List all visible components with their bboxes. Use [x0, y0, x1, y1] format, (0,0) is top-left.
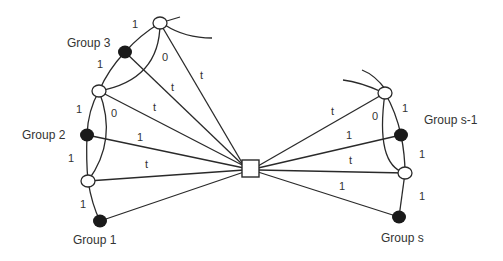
- edge-groups1-hub: [258, 135, 401, 168]
- group-label: Group s: [381, 231, 424, 245]
- edge-weight-label: t: [153, 101, 156, 113]
- edge-weight-label: 1: [76, 103, 82, 115]
- open-node: [81, 175, 95, 187]
- edge-weight-label: 1: [137, 131, 143, 143]
- group-label: Group 3: [67, 36, 111, 50]
- edge-weight-label: 1: [346, 129, 352, 141]
- edge-weight-label: 1: [97, 58, 103, 70]
- edge-group3-hub: [125, 52, 244, 166]
- edge-weight-label: t: [171, 81, 174, 93]
- edge-weight-label: 0: [111, 107, 117, 119]
- open-node: [398, 167, 412, 179]
- edge-weight-label: t: [200, 69, 203, 81]
- group-label: Group 1: [73, 233, 117, 247]
- filled-node-group-s: [392, 211, 406, 224]
- edge-weight-label: 1: [132, 18, 138, 30]
- filled-node-group3: [118, 46, 132, 59]
- group-labels: Group 3 Group 2 Group 1 Group s-1 Group …: [22, 36, 478, 247]
- filled-node-group-s-1: [394, 129, 408, 142]
- group-label: Group s-1: [424, 113, 478, 127]
- edge-rtop-hub: [258, 93, 385, 166]
- edge-group2-hub: [87, 135, 244, 168]
- right-chain: [343, 70, 405, 217]
- filled-node-group1: [93, 215, 107, 228]
- hub-square-node: [242, 160, 259, 177]
- open-node: [92, 85, 106, 97]
- edge-weight-label: 0: [372, 110, 378, 122]
- edge-weight-label: 1: [419, 148, 425, 160]
- edge-weight-label: 1: [339, 180, 345, 192]
- open-node: [378, 87, 392, 99]
- edge-groups-hub: [258, 172, 399, 217]
- edge-rbot-hub: [258, 170, 405, 173]
- group-label: Group 2: [22, 128, 66, 142]
- edge-group1-hub: [100, 172, 244, 221]
- bipartite-group-diagram: Group 3 Group 2 Group 1 Group s-1 Group …: [0, 0, 503, 261]
- edge-weight-label: 0: [162, 51, 168, 63]
- filled-node-group2: [80, 129, 94, 142]
- edge-weight-label: 1: [402, 102, 408, 114]
- edge-weight-label: t: [145, 158, 148, 170]
- edges-to-hub: [87, 23, 405, 221]
- nodes: [80, 17, 412, 228]
- edge-weight-label: 1: [419, 190, 425, 202]
- edge-weight-label: 1: [68, 152, 74, 164]
- edge-weight-label: t: [349, 154, 352, 166]
- open-node: [153, 17, 167, 29]
- edge-weight-label: t: [331, 105, 334, 117]
- edge-weight-label: 1: [80, 198, 86, 210]
